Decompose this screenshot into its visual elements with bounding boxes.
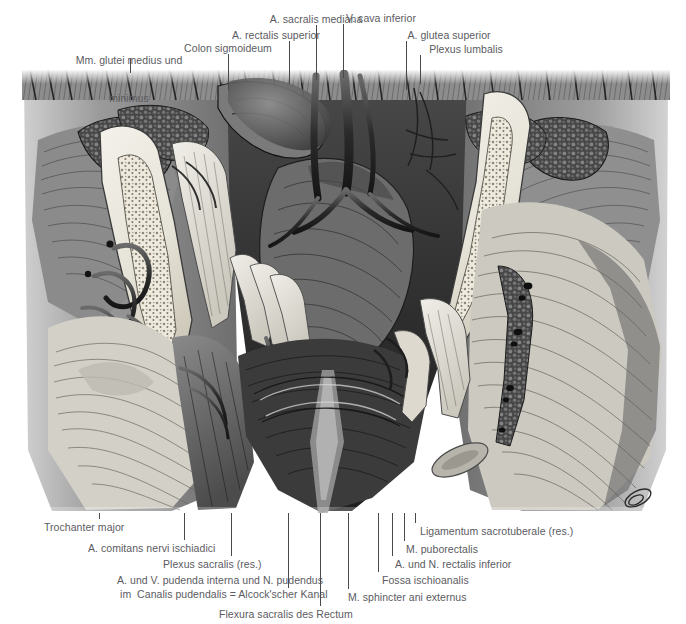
leader-trochanter-major bbox=[99, 513, 100, 519]
label-a-rectalis-superior: A. rectalis superior bbox=[232, 29, 320, 42]
leader-mm-glutei-medius-und-minimus bbox=[130, 59, 131, 73]
label-a-glutea-superior: A. glutea superior bbox=[407, 29, 490, 42]
illustration-canvas bbox=[22, 70, 670, 513]
leader-a-und-v-pudenda-interna-und-n-pudendus bbox=[288, 513, 289, 588]
label-plexus-sacralis-res: Plexus sacralis (res.) bbox=[163, 558, 262, 571]
leader-ligamentum-sacrotuberale-res bbox=[415, 513, 416, 523]
leader-colon-sigmoideum bbox=[228, 54, 229, 90]
label-a-und-n-rectalis-inferior: A. und N. rectalis inferior bbox=[395, 558, 511, 571]
label-line-2: minimus bbox=[76, 92, 183, 105]
leader-plexus-sacralis-res bbox=[231, 513, 232, 556]
leader-flexura-sacralis-des-rectum bbox=[320, 513, 321, 606]
label-plexus-lumbalis: Plexus lumbalis bbox=[429, 43, 503, 56]
leader-v-cava-inferior bbox=[343, 24, 344, 78]
leader-a-glutea-superior bbox=[406, 41, 407, 90]
label-mm-glutei-medius-und-minimus: Mm. glutei medius und minimus bbox=[76, 29, 183, 129]
label-im-canalis-pudendalis-alcockscher-kanal: im Canalis pudendalis = Alcock'scher Kan… bbox=[120, 588, 328, 601]
label-line-1: Mm. glutei medius und bbox=[76, 54, 183, 67]
label-v-cava-inferior: V. cava inferior bbox=[346, 12, 416, 25]
leader-a-comitans-nervi-ischiadici bbox=[184, 513, 185, 540]
leader-fossa-ischioanalis bbox=[378, 513, 379, 572]
label-m-sphincter-ani-externus: M. sphincter ani externus bbox=[348, 591, 467, 604]
anatomical-illustration bbox=[22, 70, 670, 513]
leader-m-puborectalis bbox=[404, 513, 405, 541]
label-trochanter-major: Trochanter major bbox=[44, 521, 124, 534]
leader-a-und-n-rectalis-inferior bbox=[392, 513, 393, 556]
label-a-und-v-pudenda-interna-und-n-pudendus: A. und V. pudenda interna und N. pudendu… bbox=[117, 574, 323, 587]
label-ligamentum-sacrotuberale-res: Ligamentum sacrotuberale (res.) bbox=[420, 525, 573, 538]
figure-page: Mm. glutei medius und minimus Colon sigm… bbox=[0, 0, 686, 624]
leader-m-sphincter-ani-externus bbox=[348, 513, 349, 589]
label-m-puborectalis: M. puborectalis bbox=[406, 543, 478, 556]
label-flexura-sacralis-des-rectum: Flexura sacralis des Rectum bbox=[219, 608, 353, 621]
leader-plexus-lumbalis bbox=[420, 55, 421, 84]
leader-a-sacralis-mediana bbox=[316, 25, 317, 80]
label-a-comitans-nervi-ischiadici: A. comitans nervi ischiadici bbox=[88, 542, 215, 555]
label-fossa-ischioanalis: Fossa ischioanalis bbox=[382, 574, 469, 587]
label-colon-sigmoideum: Colon sigmoideum bbox=[184, 42, 272, 55]
leader-a-rectalis-superior bbox=[289, 41, 290, 84]
